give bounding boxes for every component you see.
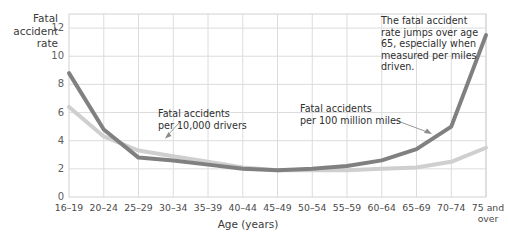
x-axis-title: Age (years) [0, 218, 496, 230]
x-axis-tick-label-line1: 75 and [472, 202, 504, 213]
y-axis-tick-label: 10 [42, 51, 64, 61]
y-axis-tick-label: 0 [42, 192, 64, 202]
y-axis-tick-label: 2 [42, 164, 64, 174]
leader-arrow-miles [424, 129, 432, 135]
y-axis-tick-label: 12 [42, 23, 64, 33]
leader-arrow-drivers [165, 132, 172, 139]
callout-per-100-million-miles: Fatal accidents per 100 million miles [300, 103, 401, 126]
y-axis-tick-label: 4 [42, 136, 64, 146]
callout-per-10000-drivers: Fatal accidents per 10,000 drivers [158, 108, 247, 131]
y-axis-tick-label: 6 [42, 108, 64, 118]
y-axis-tick-label: 8 [42, 79, 64, 89]
annotation-age-65-jump: The fatal accident rate jumps over age 6… [381, 15, 489, 73]
